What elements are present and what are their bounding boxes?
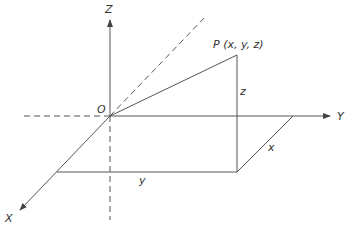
coordinate-diagram: Z Y X O P (x, y, z) z x y	[0, 0, 346, 229]
negative-x-axis	[110, 15, 207, 116]
x-axis	[20, 116, 110, 210]
z-axis-label: Z	[104, 3, 113, 16]
z-segment-label: z	[239, 85, 246, 98]
origin-label: O	[97, 103, 106, 116]
y-segment-label: y	[138, 174, 146, 187]
x-segment-label: x	[267, 141, 275, 154]
x-distance-segment	[237, 116, 293, 172]
point-p-label: P (x, y, z)	[213, 38, 264, 51]
y-axis-label: Y	[337, 110, 345, 123]
x-axis-label: X	[4, 212, 13, 225]
position-vector-op	[110, 55, 237, 116]
